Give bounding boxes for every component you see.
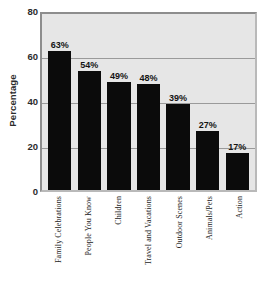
bar-animals-pets[interactable]: 27% <box>196 131 219 190</box>
y-tick-label-40: 40 <box>16 97 38 107</box>
bar-value-label: 48% <box>140 73 158 83</box>
bar-slot: 49% <box>104 14 134 190</box>
x-slot: Animals/Pets <box>194 194 224 290</box>
x-slot: Travel and Vacations <box>133 194 163 290</box>
y-axis-tick-labels: 80 60 40 20 0 <box>14 0 38 290</box>
x-label-family-celebrations: Family Celebrations <box>54 196 63 263</box>
bar-travel-and-vacations[interactable]: 48% <box>137 84 160 190</box>
bar-value-label: 49% <box>110 71 128 81</box>
chart-title <box>40 0 258 2</box>
bar-value-label: 39% <box>169 93 187 103</box>
bar-action[interactable]: 17% <box>226 153 249 190</box>
bar-outdoor-scenes[interactable]: 39% <box>166 104 189 190</box>
y-tick-label-0: 0 <box>16 187 38 197</box>
bar-value-label: 54% <box>80 60 98 70</box>
x-slot: Children <box>103 194 133 290</box>
y-tick-label-60: 60 <box>16 52 38 62</box>
x-label-action: Action <box>234 196 243 218</box>
bar-children[interactable]: 49% <box>107 82 130 190</box>
x-slot: Outdoor Scenes <box>164 194 194 290</box>
bar-slot: 54% <box>75 14 105 190</box>
y-tick-label-20: 20 <box>16 142 38 152</box>
bar-slot: 63% <box>45 14 75 190</box>
plot-area: 63% 54% 49% 48% 39% <box>40 12 257 192</box>
bar-slot: 48% <box>134 14 164 190</box>
bar-slot: 27% <box>193 14 223 190</box>
bar-family-celebrations[interactable]: 63% <box>48 51 71 190</box>
bar-value-label: 17% <box>228 142 246 152</box>
bar-value-label: 27% <box>199 120 217 130</box>
bar-slot: 39% <box>163 14 193 190</box>
x-slot: Family Celebrations <box>43 194 73 290</box>
x-label-animals-pets: Animals/Pets <box>204 196 213 240</box>
bar-slot: 17% <box>222 14 252 190</box>
bar-chart-figure: Percentage 80 60 40 20 0 63% 54% 49% <box>0 0 262 290</box>
x-label-children: Children <box>114 196 123 225</box>
bar-series: 63% 54% 49% 48% 39% <box>42 14 255 190</box>
x-slot: People You Know <box>73 194 103 290</box>
x-label-outdoor-scenes: Outdoor Scenes <box>174 196 183 248</box>
x-label-travel-and-vacations: Travel and Vacations <box>144 196 153 265</box>
bar-people-you-know[interactable]: 54% <box>78 71 101 190</box>
x-axis-category-labels: Family Celebrations People You Know Chil… <box>40 194 257 290</box>
y-tick-label-80: 80 <box>16 7 38 17</box>
bar-value-label: 63% <box>51 40 69 50</box>
x-label-people-you-know: People You Know <box>84 196 93 256</box>
x-slot: Action <box>224 194 254 290</box>
